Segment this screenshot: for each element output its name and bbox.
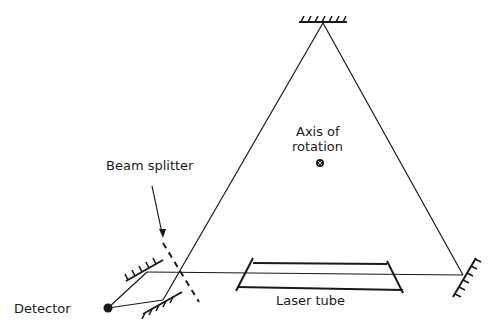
lower-mirror-icon — [142, 292, 182, 319]
beam-splitter-arrow-icon — [152, 186, 166, 238]
axis-label-line2: rotation — [292, 140, 343, 153]
beam-splitter-label: Beam splitter — [106, 159, 193, 172]
ring-laser-diagram — [0, 0, 492, 331]
laser-tube-label: Laser tube — [276, 294, 345, 307]
axis-of-rotation-icon — [316, 159, 324, 167]
detector-label: Detector — [14, 302, 71, 315]
detector-icon — [104, 304, 113, 313]
laser-tube-icon — [236, 258, 403, 293]
beam-path-right — [323, 23, 463, 275]
axis-label-line1: Axis of — [296, 125, 340, 138]
beam-path-bottom — [147, 272, 463, 275]
top-mirror-icon — [299, 16, 347, 22]
left-mirror-icon — [125, 258, 163, 281]
